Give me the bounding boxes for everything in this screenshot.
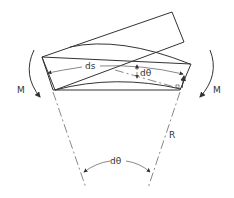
dtheta-small-label: dθ	[140, 68, 152, 78]
moment-right-label: M	[213, 85, 221, 95]
beam-bending-diagram: ds dθ M M R dθ	[0, 0, 234, 198]
moment-left-label: M	[17, 85, 25, 95]
dtheta-small: dθ	[115, 65, 184, 88]
ds-label: ds	[85, 61, 96, 71]
radius-label: R	[169, 130, 175, 140]
moment-left: M	[17, 50, 40, 97]
center-angle: dθ	[84, 156, 150, 172]
rotated-segment	[42, 12, 184, 90]
moment-right: M	[200, 50, 221, 97]
center-angle-label: dθ	[110, 156, 122, 166]
radial-lines: R	[53, 92, 180, 188]
bent-beam-arcs	[55, 44, 190, 90]
